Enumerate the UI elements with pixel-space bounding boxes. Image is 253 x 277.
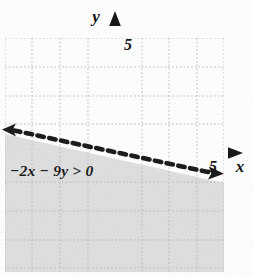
x-axis-label: x: [235, 157, 245, 176]
y-axis-tick-label-5: 5: [124, 36, 132, 53]
coordinate-plane-svg: y x 5 5 −2x − 9y > 0: [0, 0, 253, 277]
x-axis-tick-label-5: 5: [209, 158, 217, 175]
y-axis-label: y: [90, 7, 100, 26]
inequality-annotation: −2x − 9y > 0: [10, 162, 93, 179]
graph-figure: y x 5 5 −2x − 9y > 0: [0, 0, 253, 277]
